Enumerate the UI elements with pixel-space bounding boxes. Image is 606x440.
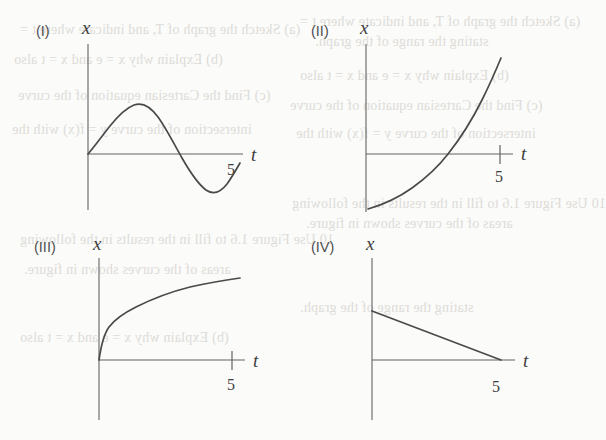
- panel-2-y-axis-label: x: [359, 17, 369, 38]
- panel-3: (III) x t 5: [34, 233, 259, 420]
- panel-1-y-axis-label: x: [81, 17, 91, 38]
- panel-3-label: (III): [34, 239, 56, 255]
- panel-1-x-axis-label: t: [251, 144, 257, 165]
- panel-2-curve: [368, 58, 501, 209]
- panel-1-tick-label: 5: [227, 161, 235, 178]
- panel-3-curve: [99, 278, 240, 360]
- panel-2: (II) x t 5: [311, 17, 527, 212]
- panel-1-curve: [88, 104, 240, 193]
- panel-4-tick-label: 5: [492, 378, 500, 395]
- panel-3-x-axis-label: t: [253, 350, 259, 371]
- panel-3-tick-label: 5: [227, 376, 235, 393]
- panel-1: (I) x t 5: [36, 17, 257, 210]
- panel-4-label: (IV): [311, 239, 334, 255]
- panel-4-y-axis-label: x: [365, 233, 375, 254]
- panel-4: (IV) x t 5: [311, 233, 529, 420]
- panel-4-curve: [372, 311, 501, 360]
- panel-2-label: (II): [311, 23, 329, 39]
- panel-2-tick-label: 5: [495, 168, 503, 185]
- panel-1-label: (I): [36, 23, 50, 39]
- panel-2-x-axis-label: t: [521, 143, 527, 164]
- panel-3-y-axis-label: x: [92, 233, 102, 254]
- panel-4-x-axis-label: t: [523, 350, 529, 371]
